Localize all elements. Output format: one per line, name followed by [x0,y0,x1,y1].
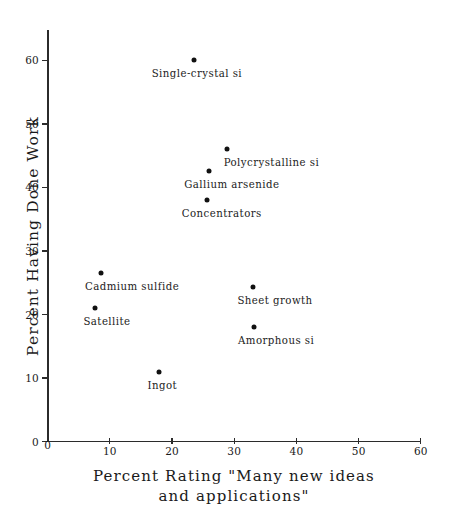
data-point-label: Gallium arsenide [184,180,279,190]
data-point-label: Amorphous si [238,336,314,346]
x-axis-tick-label: 40 [290,446,304,457]
data-point-label: Sheet growth [237,296,312,306]
x-axis-tick: 40 [296,438,297,444]
data-point[interactable] [252,325,257,330]
x-axis-tick-label: 50 [352,446,366,457]
y-axis-tick-label: 0 [32,436,39,447]
data-point[interactable] [224,146,229,151]
y-axis-tick: 40 [42,187,48,188]
x-axis-tick: 10 [109,438,110,444]
x-axis-tick: 20 [171,438,172,444]
data-point-label: Cadmium sulfide [85,282,179,292]
y-axis-line [47,30,49,442]
data-point[interactable] [157,369,162,374]
y-axis-title: Percent Having Done Work [24,116,42,356]
y-axis-tick: 10 [42,377,48,378]
data-point[interactable] [251,285,256,290]
x-axis-title-line-2: and applications" [47,486,421,506]
data-point-label: Satellite [83,317,130,327]
x-axis-tick: 50 [358,438,359,444]
data-point-label: Ingot [147,381,177,391]
data-point[interactable] [98,271,103,276]
data-point[interactable] [204,198,209,203]
data-point-label: Concentrators [182,209,262,219]
data-point-label: Single-crystal si [152,69,242,79]
x-axis-tick-label: 20 [165,446,179,457]
y-axis-tick: 60 [42,60,48,61]
x-axis-tick: 30 [234,438,235,444]
y-axis-tick-label: 10 [25,373,39,384]
x-axis-tick: 60 [420,438,421,444]
y-axis-tick: 30 [42,250,48,251]
data-point-label: Polycrystalline si [224,158,320,168]
x-axis-tick-label: 10 [103,446,117,457]
scatter-chart-figure: 0102030405060 0102030405060 Single-cryst… [0,0,450,516]
y-axis-tick-label: 60 [25,55,39,66]
y-axis-tick: 50 [42,123,48,124]
x-axis-tick-label: 30 [227,446,241,457]
data-point[interactable] [93,306,98,311]
data-point[interactable] [207,169,212,174]
x-axis-title: Percent Rating "Many new ideas and appli… [47,466,421,507]
x-axis-tick-label: 0 [44,440,51,451]
x-axis-tick-label: 60 [414,446,428,457]
y-axis-tick: 20 [42,314,48,315]
x-axis-title-line-1: Percent Rating "Many new ideas [93,467,375,485]
data-point[interactable] [191,58,196,63]
